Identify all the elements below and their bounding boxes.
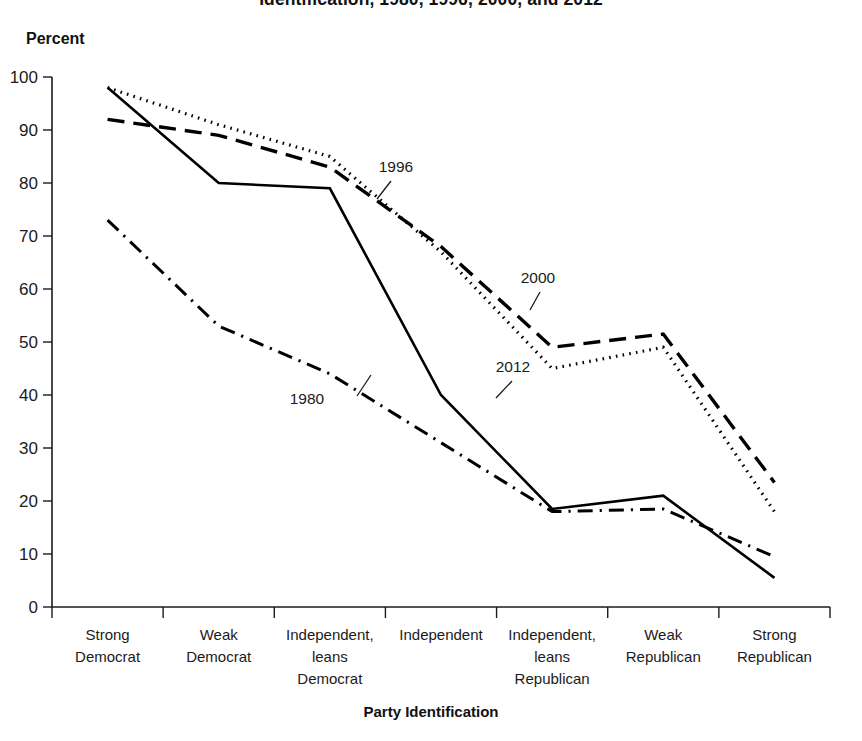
y-tick-label: 20 <box>19 492 38 511</box>
y-tick-label: 30 <box>19 439 38 458</box>
data-series-group <box>108 88 775 578</box>
series-annotations: 1996200020121980 <box>290 158 556 407</box>
x-axis-title: Party Identification <box>0 703 862 720</box>
y-tick-label: 60 <box>19 280 38 299</box>
series-line-2012 <box>108 88 775 578</box>
chart-plot-area: 0102030405060708090100 StrongDemocratWea… <box>0 0 862 741</box>
x-category-label: Strong <box>752 626 796 643</box>
y-axis-ticks: 0102030405060708090100 <box>10 68 52 617</box>
x-category-label: leans <box>312 648 348 665</box>
x-category-label: Weak <box>200 626 239 643</box>
series-line-1980 <box>108 220 775 557</box>
x-category-label: Democrat <box>186 648 252 665</box>
x-category-label: Democrat <box>297 670 363 687</box>
y-tick-label: 80 <box>19 174 38 193</box>
axis-lines <box>52 77 830 607</box>
y-tick-label: 100 <box>10 68 38 87</box>
annotation-leader-2012 <box>496 381 512 398</box>
x-category-label: Independent <box>399 626 483 643</box>
series-annotation-1980: 1980 <box>290 390 325 407</box>
x-category-label: Independent, <box>286 626 374 643</box>
y-tick-label: 50 <box>19 333 38 352</box>
annotation-leader-1996 <box>377 181 391 199</box>
series-annotation-1996: 1996 <box>379 158 413 175</box>
x-category-label: Republican <box>515 670 590 687</box>
chart-container: Identification, 1980, 1996, 2000, and 20… <box>0 0 862 741</box>
series-line-1996 <box>108 88 775 512</box>
annotation-leader-1980 <box>357 375 371 396</box>
x-category-label: Independent, <box>508 626 596 643</box>
y-tick-label: 40 <box>19 386 38 405</box>
series-annotation-2000: 2000 <box>521 269 556 286</box>
y-tick-label: 0 <box>29 598 38 617</box>
x-axis-category-labels: StrongDemocratWeakDemocratIndependent,le… <box>75 626 812 687</box>
annotation-leader-2000 <box>530 292 540 310</box>
x-category-label: Strong <box>85 626 129 643</box>
x-category-label: Republican <box>737 648 812 665</box>
x-category-label: Democrat <box>75 648 141 665</box>
y-tick-label: 90 <box>19 121 38 140</box>
x-category-label: leans <box>534 648 570 665</box>
series-annotation-2012: 2012 <box>496 358 530 375</box>
x-axis-ticks <box>52 607 830 618</box>
y-tick-label: 10 <box>19 545 38 564</box>
x-category-label: Weak <box>644 626 683 643</box>
y-tick-label: 70 <box>19 227 38 246</box>
x-category-label: Republican <box>626 648 701 665</box>
